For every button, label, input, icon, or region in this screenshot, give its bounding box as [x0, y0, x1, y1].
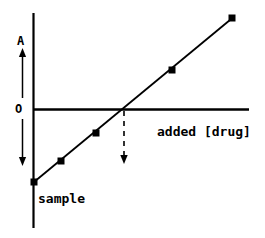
standard-addition-line	[34, 18, 233, 183]
data-point	[58, 158, 65, 165]
data-point	[169, 67, 176, 74]
y-axis-label: A	[17, 34, 25, 48]
x-axis-label: added [drug]	[157, 124, 251, 139]
standard-addition-chart: A O added [drug] sample	[0, 0, 265, 238]
y-axis-up-arrow-icon	[19, 48, 26, 98]
sample-point-label: sample	[38, 191, 85, 206]
origin-label: O	[15, 102, 22, 116]
y-axis-down-arrow-icon	[19, 119, 26, 166]
data-point	[31, 179, 38, 186]
x-intercept-dashed-line	[120, 111, 127, 164]
data-point	[93, 130, 100, 137]
data-point	[229, 15, 236, 22]
figure-container: A O added [drug] sample	[0, 0, 265, 238]
